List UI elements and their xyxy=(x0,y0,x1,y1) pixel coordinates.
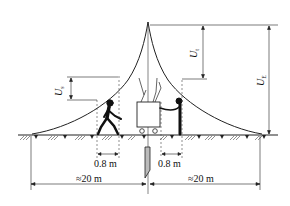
earth-potential-label: UE xyxy=(255,75,267,86)
step-distance-arrow xyxy=(98,153,118,156)
earth-potential-diagram: 0.8 m 0.8 m ≈20 m ≈20 m Us Ut UE xyxy=(0,0,290,206)
earth-potential-indicator xyxy=(268,26,271,134)
touching-person xyxy=(160,98,182,134)
ground-electrode xyxy=(145,147,150,178)
equipment-box xyxy=(137,78,161,133)
step-voltage-indicator xyxy=(67,77,118,100)
touch-distance-arrow xyxy=(162,153,181,156)
touch-voltage-label: Ut xyxy=(188,49,200,58)
touch-distance-label: 0.8 m xyxy=(158,158,181,169)
ground-hatching xyxy=(20,136,262,140)
right-span-label: ≈20 m xyxy=(188,173,214,184)
step-voltage-label: Us xyxy=(53,86,65,96)
touch-voltage-indicator xyxy=(150,25,278,79)
step-distance-label: 0.8 m xyxy=(94,158,117,169)
left-span-label: ≈20 m xyxy=(76,173,102,184)
